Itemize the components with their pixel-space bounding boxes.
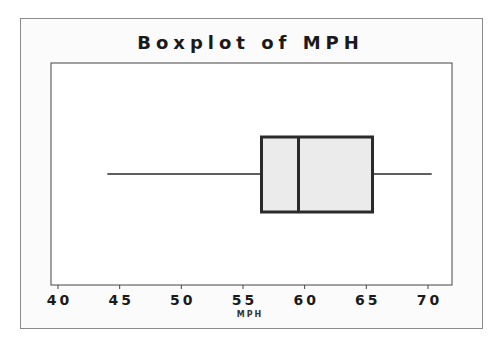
boxplot-svg: 40455055606570 MPH <box>0 0 501 347</box>
x-axis-label: MPH <box>237 310 264 319</box>
x-tick-label: 55 <box>232 292 257 308</box>
x-tick-label: 70 <box>417 292 442 308</box>
x-tick-label: 60 <box>293 292 318 308</box>
x-axis-ticks <box>58 285 428 289</box>
x-axis-tick-labels: 40455055606570 <box>47 292 442 308</box>
x-tick-label: 65 <box>355 292 380 308</box>
chart-canvas: Boxplot of MPH 40455055606570 MPH <box>0 0 501 347</box>
x-tick-label: 50 <box>170 292 195 308</box>
x-tick-label: 40 <box>47 292 72 308</box>
iqr-box <box>262 137 373 212</box>
x-tick-label: 45 <box>108 292 133 308</box>
